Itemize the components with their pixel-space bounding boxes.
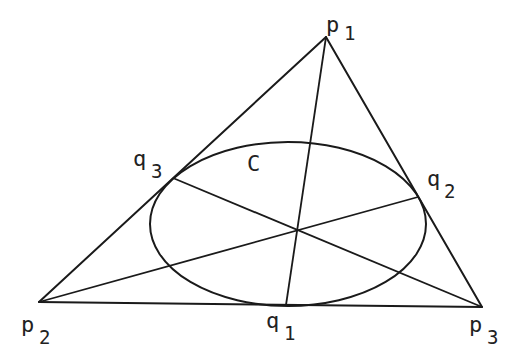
side-p2-p3 bbox=[39, 302, 482, 307]
triangle-conic-diagram: p 1 p 2 p 3 q 1 q 2 q 3 C bbox=[0, 0, 523, 363]
label-q2-base: q bbox=[427, 166, 440, 191]
label-p3-sub: 3 bbox=[487, 326, 498, 348]
label-p2-base: p bbox=[21, 312, 34, 337]
side-p1-p3 bbox=[326, 37, 482, 307]
cevian-p1-q1 bbox=[286, 37, 326, 305]
label-p3: p 3 bbox=[469, 312, 498, 348]
inscribed-conic-c bbox=[150, 142, 426, 306]
label-q1: q 1 bbox=[266, 308, 295, 344]
label-q3-sub: 3 bbox=[151, 160, 162, 182]
label-p1-sub: 1 bbox=[344, 22, 355, 44]
label-p2: p 2 bbox=[21, 312, 50, 348]
label-q3: q 3 bbox=[133, 146, 162, 182]
label-p1: p 1 bbox=[326, 12, 355, 44]
label-p1-base: p bbox=[326, 12, 339, 37]
label-q1-base: q bbox=[266, 308, 279, 333]
label-q2: q 2 bbox=[427, 166, 455, 202]
label-q3-base: q bbox=[133, 146, 146, 171]
cevian-p3-q3 bbox=[173, 178, 482, 307]
label-p2-sub: 2 bbox=[39, 326, 50, 348]
label-q1-sub: 1 bbox=[284, 322, 295, 344]
label-q2-sub: 2 bbox=[444, 180, 455, 202]
label-conic-c: C bbox=[247, 151, 260, 176]
label-p3-base: p bbox=[469, 312, 482, 337]
